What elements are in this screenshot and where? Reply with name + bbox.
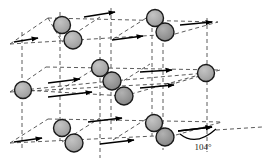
atom-mid-left bbox=[15, 82, 32, 99]
atom-mid-center-front bbox=[115, 87, 133, 105]
arrow-mid-back-right bbox=[140, 70, 172, 72]
atom-bot-front-right bbox=[156, 128, 174, 146]
atom-top-back-left bbox=[54, 17, 71, 34]
angle-marker-104: 104° bbox=[178, 127, 216, 152]
atom-mid-center bbox=[103, 72, 121, 90]
atom-bot-front-left bbox=[65, 134, 83, 152]
arrow-mid-front-left bbox=[48, 92, 92, 97]
atom-top-front-left bbox=[64, 31, 82, 49]
atom-mid-right bbox=[198, 65, 215, 82]
arrow-top-right-outer bbox=[180, 22, 212, 25]
arrow-bot-left-outer bbox=[14, 138, 42, 142]
crystal-lattice-figure: 104° bbox=[0, 0, 263, 164]
angle-label: 104° bbox=[194, 142, 212, 152]
arrow-bot-front bbox=[100, 140, 134, 144]
atom-top-front-right bbox=[156, 23, 174, 41]
arrow-top-front-mid bbox=[112, 36, 143, 40]
arrow-top-back-upper bbox=[84, 12, 115, 17]
arrow-mid-front-right bbox=[140, 85, 174, 88]
atom-bot-back-left bbox=[54, 120, 71, 137]
lattice-dashed-framework bbox=[10, 8, 262, 158]
lattice-layer-bottom bbox=[10, 116, 262, 143]
lattice-diagram-canvas: 104° bbox=[0, 0, 263, 164]
